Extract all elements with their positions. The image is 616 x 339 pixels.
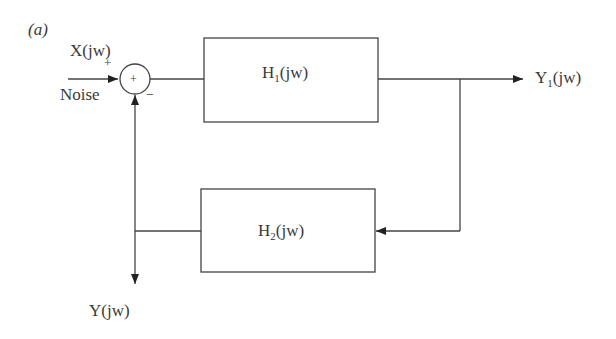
- y-output-label: Y(jw): [89, 302, 130, 319]
- y1-output-label: Y1(jw): [535, 69, 581, 86]
- h1-block-label: H1(jw): [262, 64, 308, 81]
- noise-label: Noise: [60, 86, 100, 103]
- minus-sign: −: [146, 88, 154, 102]
- panel-label: (a): [28, 21, 48, 38]
- summing-symbol: +: [130, 73, 137, 85]
- h2-block-label: H2(jw): [258, 222, 304, 239]
- plus-sign: +: [104, 56, 111, 69]
